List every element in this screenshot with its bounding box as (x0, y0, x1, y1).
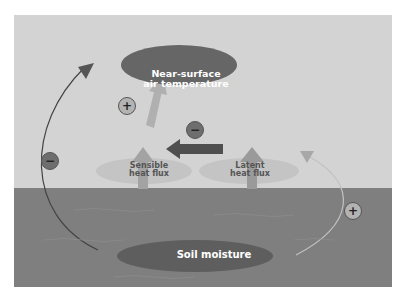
plus-sign-sensible-air: + (118, 97, 136, 115)
latent-to-sensible-arrow (166, 139, 223, 159)
right-feedback-curve (296, 157, 343, 255)
sensible-label-line2: heat flux (124, 170, 174, 178)
latent-label-line2: heat flux (225, 170, 275, 178)
minus-sign-left-loop: − (41, 152, 59, 170)
air-temperature-label: Near-surface air temperature (136, 69, 236, 89)
diagram-panel: Near-surface air temperature Soil moistu… (14, 15, 392, 287)
right-curve-arrowhead (300, 151, 314, 163)
latent-heat-flux-label: Latent heat flux (225, 162, 275, 179)
soil-moisture-label: Soil moisture (144, 250, 284, 261)
plus-sign-right-loop: + (344, 202, 362, 220)
diagram-graphics (14, 15, 392, 287)
minus-sign-latent-sensible: − (186, 121, 204, 139)
air-temperature-label-line2: air temperature (136, 79, 236, 89)
sensible-heat-flux-label: Sensible heat flux (124, 162, 174, 179)
